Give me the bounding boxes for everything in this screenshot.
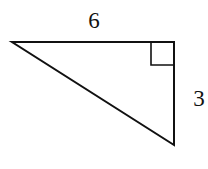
right-side-length-label: 3 — [193, 86, 205, 111]
top-side-length-label: 6 — [88, 8, 100, 33]
triangle-diagram: 6 3 — [0, 0, 208, 169]
right-triangle — [12, 42, 174, 145]
right-angle-marker — [151, 42, 174, 65]
